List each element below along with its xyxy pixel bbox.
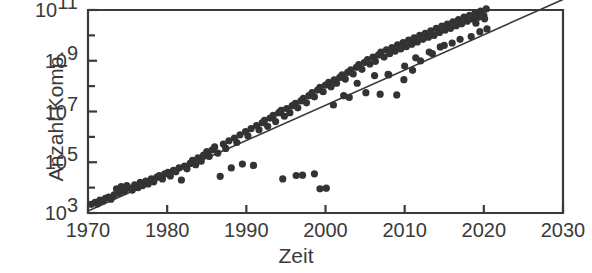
svg-text:2030: 2030 [541,219,586,241]
axis-tick-labels: 1970198019902000201020202030103105107109… [35,0,585,241]
scatter-points [88,5,491,208]
svg-text:1990: 1990 [224,219,269,241]
svg-text:1980: 1980 [145,219,190,241]
svg-text:105: 105 [45,143,78,173]
svg-text:107: 107 [45,93,78,123]
svg-text:2020: 2020 [462,219,507,241]
svg-text:2000: 2000 [303,219,348,241]
svg-text:1970: 1970 [66,219,111,241]
axis-ticks [88,10,563,213]
svg-text:1011: 1011 [35,0,78,21]
svg-text:109: 109 [45,42,78,72]
plot-frame [88,10,563,213]
plot-area: 1970198019902000201020202030103105107109… [0,0,592,273]
svg-text:2010: 2010 [382,219,427,241]
chart-figure: Anzahl Komp. Zeit 1970198019902000201020… [0,0,592,273]
